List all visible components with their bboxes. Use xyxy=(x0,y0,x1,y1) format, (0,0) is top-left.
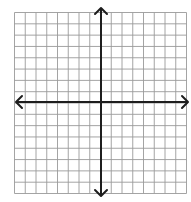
axes xyxy=(16,8,188,196)
coordinate-grid xyxy=(0,0,191,202)
